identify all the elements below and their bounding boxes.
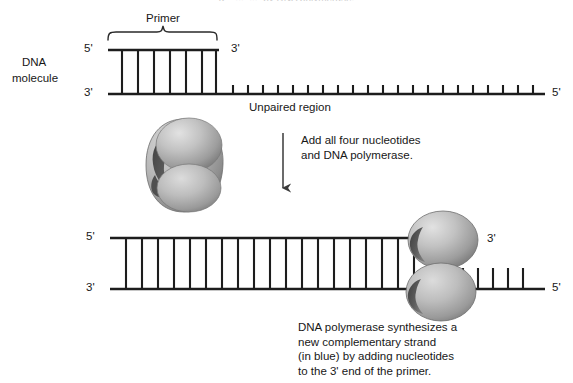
dna-polymerase-diagram: g ... ... by DNA polymerase. [0, 0, 573, 383]
dna-molecule-label-line1: DNA [22, 56, 46, 70]
end-label-newstrand-3prime: 3' [487, 232, 496, 244]
result-caption: DNA polymerase synthesizes a new complem… [298, 320, 457, 378]
fork-dna-polymerase-enzyme [406, 211, 478, 321]
bottom-dna-panel [110, 238, 545, 289]
end-label-top-5prime: 5' [84, 42, 93, 54]
end-label-bottom-5prime-right: 5' [552, 281, 561, 293]
end-label-bottom-5prime: 5' [86, 230, 95, 242]
free-dna-polymerase-enzyme [146, 118, 223, 212]
primer-label: Primer [146, 12, 180, 26]
unpaired-region-label: Unpaired region [249, 101, 331, 115]
end-label-top-3prime: 3' [231, 42, 240, 54]
end-label-template-3prime: 3' [84, 86, 93, 98]
end-label-bottom-3prime: 3' [86, 281, 95, 293]
step-caption: Add all four nucleotides and DNA polymer… [301, 133, 421, 162]
dna-molecule-label-line2: molecule [12, 72, 58, 86]
top-dna-panel [108, 26, 545, 94]
end-label-template-5prime: 5' [552, 86, 561, 98]
diagram-artwork [0, 0, 573, 383]
